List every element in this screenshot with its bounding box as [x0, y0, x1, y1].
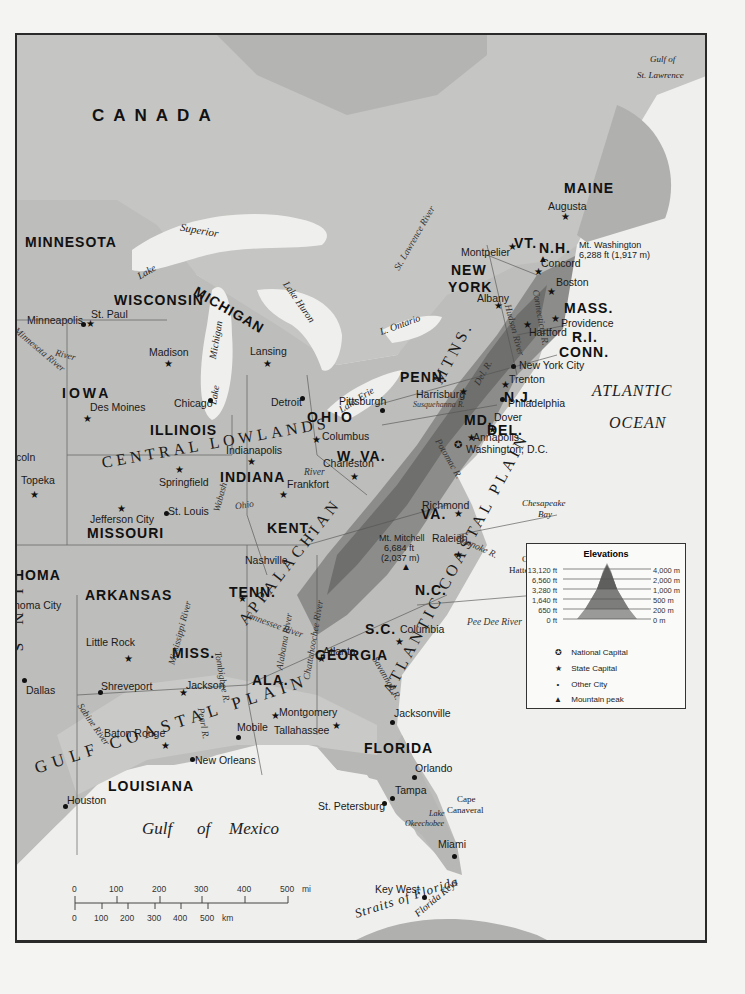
state-oklahoma-partial: HOMA [15, 568, 61, 582]
city-boston: Boston [556, 277, 589, 288]
star-icon: ★ [279, 490, 288, 500]
legend-m-200: 200 m [653, 606, 674, 615]
city-st-louis: St. Louis [168, 506, 209, 517]
peak-mt-washington: Mt. Washington [579, 241, 641, 250]
city-new-york-city: New York City [519, 360, 584, 371]
peak-mt-mitchell: Mt. Mitchell [379, 534, 425, 543]
city-atlanta: Atlanta [323, 646, 356, 657]
state-iowa: IOWA [62, 386, 111, 400]
state-louisiana: LOUISIANA [108, 779, 194, 793]
city-montgomery: Montgomery [279, 707, 337, 718]
scale-mi-0: 0 [72, 884, 77, 894]
city-dot-orlando [412, 775, 417, 780]
city-jacksonville: Jacksonville [394, 708, 451, 719]
label-cape-canaveral: Cape [457, 795, 476, 804]
city-topeka: Topeka [21, 475, 55, 486]
city-frankfort: Frankfort [287, 479, 329, 490]
national-capital-icon: ✪ [547, 648, 569, 657]
water-label-atlantic: ATLANTIC [592, 383, 672, 399]
city-mobile: Mobile [237, 722, 268, 733]
star-icon: ★ [332, 721, 341, 731]
star-icon: ★ [175, 465, 184, 475]
national-capital-icon: ✪ [454, 440, 462, 450]
city-washington-dc: Washington, D.C. [466, 444, 548, 455]
legend-ft-3280: 3,280 ft [532, 586, 557, 595]
state-vt: VT. [514, 236, 537, 250]
state-wisconsin: WISCONSIN [114, 293, 204, 307]
state-conn: CONN. [559, 345, 609, 359]
legend-m-0: 0 m [653, 616, 666, 625]
water-label-okeechobee: Okeechobee [405, 820, 444, 828]
legend-key-state-capital: ★ State Capital [547, 664, 617, 673]
state-new: NEW [451, 263, 487, 277]
city-dot-philadelphia [500, 397, 505, 402]
city-dot-pittsburgh [380, 408, 385, 413]
legend-ft-6560: 6,560 ft [532, 576, 557, 585]
state-indiana: INDIANA [220, 470, 285, 484]
city-augusta: Augusta [548, 201, 587, 212]
scale-km-500: 500 [200, 913, 214, 923]
city-tampa: Tampa [395, 785, 427, 796]
water-label-gulf: Gulf [142, 820, 172, 837]
city-indianapolis: Indianapolis [226, 445, 282, 456]
state-missouri: MISSOURI [87, 526, 164, 540]
legend-m-4000: 4,000 m [653, 566, 680, 575]
scale-mi-unit: mi [302, 884, 311, 894]
water-label-gulf-st-lawrence-2: St. Lawrence [637, 71, 684, 80]
star-icon: ★ [350, 472, 359, 482]
city-charleston: Charleston [323, 458, 374, 469]
water-label-okeechobee-lake: Lake [429, 810, 445, 818]
state-minnesota: MINNESOTA [25, 235, 117, 249]
water-label-of: of [197, 820, 210, 837]
water-label-ocean: OCEAN [609, 415, 666, 431]
state-mass: MASS. [564, 301, 613, 315]
legend-m-500: 500 m [653, 596, 674, 605]
water-label-bay: Bay [538, 510, 552, 519]
water-label-mexico: Mexico [229, 820, 279, 837]
city-houston: Houston [67, 795, 106, 806]
water-label-chesapeake: Chesapeake [522, 499, 565, 508]
city-lansing: Lansing [250, 346, 287, 357]
city-dot-tampa [390, 796, 395, 801]
city-key-west: Key West [375, 884, 420, 895]
river-susquehanna: Susquehanna R. [413, 401, 465, 409]
star-icon: ★ [83, 414, 92, 424]
scale-mi-500: 500 [280, 884, 294, 894]
city-miami: Miami [438, 839, 466, 850]
legend-title: Elevations [527, 549, 685, 559]
city-dover: Dover [494, 412, 522, 423]
scale-km-400: 400 [173, 913, 187, 923]
city-shreveport: Shreveport [101, 681, 152, 692]
dot-icon: • [547, 680, 569, 689]
city-new-orleans: New Orleans [195, 755, 256, 766]
city-baton-rouge: Baton Rouge [104, 728, 165, 739]
star-icon: ★ [547, 664, 569, 673]
city-st-paul: St. Paul [91, 309, 128, 320]
legend-key-other-city: • Other City [547, 680, 607, 689]
scale-mi-300: 300 [194, 884, 208, 894]
label-cape-canaveral-2: Canaveral [447, 806, 483, 815]
scale-km-300: 300 [147, 913, 161, 923]
city-harrisburg: Harrisburg [416, 389, 465, 400]
city-providence: Providence [561, 318, 614, 329]
legend-ft-13120: 13,120 ft [528, 566, 557, 575]
mountain-peak-icon: ▲ [547, 695, 569, 704]
legend-key-national-capital: ✪ National Capital [547, 648, 628, 657]
city-lincoln-partial: coln [16, 452, 35, 463]
state-sc: S.C. [365, 622, 396, 636]
legend-key-mountain-peak: ▲ Mountain peak [547, 695, 624, 704]
map-frame: CANADA Gulf of St. Lawrence ATLANTIC OCE… [15, 33, 707, 943]
city-columbus: Columbus [322, 431, 369, 442]
city-dot-dallas [22, 678, 27, 683]
city-trenton: Trenton [509, 374, 545, 385]
river-pee-dee: Pee Dee River [467, 618, 522, 628]
city-madison: Madison [149, 347, 189, 358]
city-jefferson-city: Jefferson City [90, 514, 154, 525]
city-montpelier: Montpelier [461, 247, 510, 258]
elevation-legend: Elevations 13,120 ft 6,560 ft 3,280 ft 1… [526, 543, 686, 709]
city-columbia: Columbia [400, 624, 444, 635]
state-maine: MAINE [564, 181, 614, 195]
scale-km-unit: km [222, 913, 233, 923]
star-icon: ★ [551, 314, 560, 324]
city-richmond: Richmond [422, 500, 469, 511]
